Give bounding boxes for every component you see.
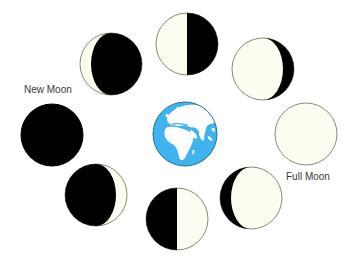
diagram-canvas (0, 0, 347, 261)
earth-globe-icon (153, 102, 217, 166)
full-moon-label: Full Moon (286, 171, 330, 182)
moon-waxing-crescent (65, 164, 127, 226)
moon-half-lit-right (146, 188, 208, 250)
moon-waxing-gibbous (220, 167, 282, 229)
moon-new (21, 104, 83, 166)
moon-half-lit-left (156, 13, 218, 75)
moon-phases-diagram: New Moon Full Moon (0, 0, 347, 261)
moon-waning-crescent (80, 33, 142, 95)
moon-full (275, 103, 337, 165)
moon-waning-gibbous (232, 38, 294, 100)
new-moon-label: New Moon (24, 84, 72, 95)
